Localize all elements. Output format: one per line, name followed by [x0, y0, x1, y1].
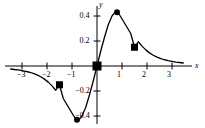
y-tick-label: 0.4	[79, 12, 89, 20]
x-tick-label: −2	[42, 71, 51, 79]
square-marker	[93, 62, 102, 71]
x-tick-label: 3	[167, 71, 171, 79]
plot-area	[0, 0, 205, 128]
x-axis-label: x	[195, 62, 199, 70]
y-tick-label: −0.4	[75, 112, 90, 120]
x-tick-label: −1	[67, 71, 76, 79]
square-marker	[56, 81, 63, 88]
y-tick-label: −0.2	[75, 87, 90, 95]
square-marker	[131, 44, 138, 51]
y-tick-label: 0.2	[79, 37, 89, 45]
y-axis-label: y	[99, 1, 103, 9]
x-tick-label: 2	[142, 71, 146, 79]
chart-figure: x y −3−2−1123 0.40.2−0.2−0.4	[0, 0, 205, 128]
circle-marker	[114, 9, 120, 15]
x-tick-label: 1	[117, 71, 121, 79]
x-tick-label: −3	[17, 71, 26, 79]
